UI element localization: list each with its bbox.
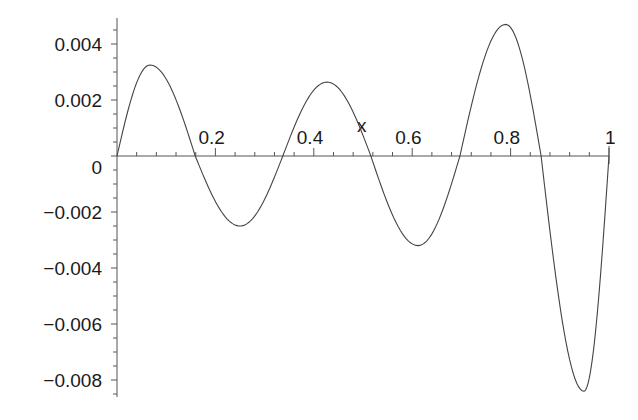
line-chart: 0.20.40.60.810.0040.0020−0.002−0.004−0.0… (0, 0, 638, 420)
x-axis (117, 146, 609, 164)
y-tick-label: −0.006 (43, 314, 102, 335)
data-curve (117, 24, 609, 391)
x-tick-label: 0.4 (297, 127, 324, 148)
tick-labels: 0.20.40.60.810.0040.0020−0.002−0.004−0.0… (43, 34, 615, 391)
y-axis (111, 18, 117, 397)
y-tick-label: 0 (91, 157, 102, 178)
x-tick-label: 0.2 (198, 127, 224, 148)
y-tick-label: −0.002 (43, 202, 102, 223)
y-tick-label: −0.004 (43, 258, 102, 279)
y-tick-label: 0.002 (54, 90, 102, 111)
x-tick-label: 0.6 (395, 127, 421, 148)
y-tick-label: −0.008 (43, 370, 102, 391)
y-tick-label: 0.004 (54, 34, 102, 55)
x-tick-label: 0.8 (494, 127, 520, 148)
x-tick-label: 1 (605, 127, 616, 148)
